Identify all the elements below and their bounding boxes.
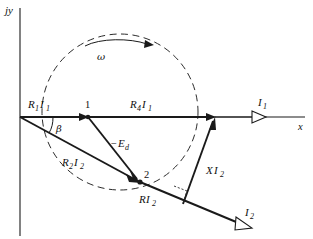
- svg-text:−: −: [111, 138, 117, 149]
- vector-minus-ed: [88, 117, 141, 183]
- label-xi2: X I 2: [205, 164, 224, 179]
- svg-text:R: R: [129, 98, 137, 110]
- svg-text:I: I: [73, 156, 79, 168]
- svg-text:d: d: [125, 143, 130, 152]
- omega-label: ω: [97, 51, 105, 62]
- svg-text:E: E: [117, 137, 125, 149]
- svg-text:R: R: [138, 193, 146, 205]
- svg-text:I: I: [141, 98, 147, 110]
- label-r4i1: R 4 I 1: [129, 98, 152, 113]
- svg-text:R: R: [61, 156, 69, 168]
- omega-rotation-arrow: [85, 40, 154, 48]
- label-r2i2: R 2 I 2: [61, 156, 84, 171]
- svg-text:2: 2: [220, 170, 224, 179]
- svg-text:2: 2: [152, 199, 156, 208]
- label-beta: β: [55, 123, 62, 134]
- svg-text:1: 1: [263, 102, 267, 111]
- svg-text:1: 1: [46, 104, 50, 113]
- y-axis-label: jy: [3, 4, 13, 16]
- label-ri2: R I 2: [138, 193, 156, 208]
- x-axis-label: x: [297, 121, 303, 132]
- label-node-2: 2: [144, 169, 149, 180]
- vector-r4i1: [88, 113, 216, 121]
- vector-i1: [215, 111, 266, 123]
- svg-text:I: I: [213, 164, 219, 176]
- vector-i2: [140, 182, 252, 230]
- svg-text:I: I: [39, 98, 45, 110]
- node-point-1: [86, 115, 91, 120]
- svg-text:2: 2: [250, 212, 254, 221]
- svg-text:I: I: [145, 193, 151, 205]
- vector-r1i1: [20, 113, 89, 121]
- vector-xi2: [183, 117, 216, 204]
- svg-text:X: X: [205, 164, 214, 176]
- label-i1: I 1: [257, 96, 267, 111]
- vector-r2i2: [20, 117, 141, 183]
- svg-text:R: R: [27, 98, 35, 110]
- diagram-canvas: jy x ω R 1 I 1 1 R 4 I 1 I: [0, 0, 313, 239]
- label-r1i1: R 1 I 1: [27, 98, 50, 113]
- label-node-1: 1: [85, 99, 90, 110]
- beta-angle-arc: [49, 117, 53, 133]
- phasor-diagram-figure: jy x ω R 1 I 1 1 R 4 I 1 I: [0, 0, 313, 239]
- label-i2: I 2: [244, 206, 254, 221]
- svg-text:2: 2: [80, 162, 84, 171]
- svg-text:1: 1: [35, 104, 39, 113]
- svg-text:2: 2: [69, 162, 73, 171]
- svg-text:1: 1: [148, 104, 152, 113]
- svg-text:4: 4: [137, 104, 141, 113]
